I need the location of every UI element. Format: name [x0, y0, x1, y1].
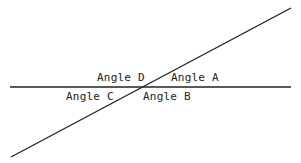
transversal-line — [11, 8, 291, 157]
angle-b-label: Angle B — [143, 91, 191, 103]
angle-a-label: Angle A — [171, 72, 219, 84]
angle-c-label: Angle C — [66, 91, 114, 103]
angle-d-label: Angle D — [97, 72, 145, 84]
lines-svg — [0, 0, 301, 163]
diagram-canvas: Angle D Angle A Angle C Angle B — [0, 0, 301, 163]
